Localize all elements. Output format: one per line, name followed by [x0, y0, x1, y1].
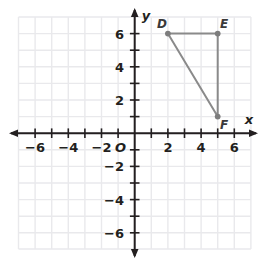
point-d-marker [165, 31, 171, 37]
coordinate-plane-svg: −6 −4 −2 2 4 6 6 4 2 −2 −4 −6 O x y [0, 0, 271, 269]
x-tick-label--6: −6 [25, 140, 45, 155]
y-tick-label--6: −6 [104, 226, 124, 241]
x-tick-label-2: 2 [163, 140, 172, 155]
y-tick-label--2: −2 [104, 159, 124, 174]
x-tick-label-4: 4 [197, 140, 206, 155]
x-tick-label--2: −2 [92, 140, 112, 155]
coordinate-plane-figure: −6 −4 −2 2 4 6 6 4 2 −2 −4 −6 O x y [0, 0, 271, 269]
y-tick-label-2: 2 [115, 93, 124, 108]
x-tick-label-6: 6 [230, 140, 239, 155]
point-label-f: F [220, 118, 229, 132]
point-label-d: D [157, 17, 167, 31]
y-tick-label-4: 4 [115, 60, 124, 75]
point-label-e: E [220, 17, 229, 31]
y-tick-label-6: 6 [115, 27, 124, 42]
y-axis-label: y [142, 8, 151, 23]
y-tick-label--4: −4 [104, 193, 124, 208]
x-tick-label--4: −4 [58, 140, 78, 155]
x-axis-label: x [244, 112, 254, 127]
point-e-marker [215, 31, 221, 37]
origin-label: O [115, 140, 126, 155]
